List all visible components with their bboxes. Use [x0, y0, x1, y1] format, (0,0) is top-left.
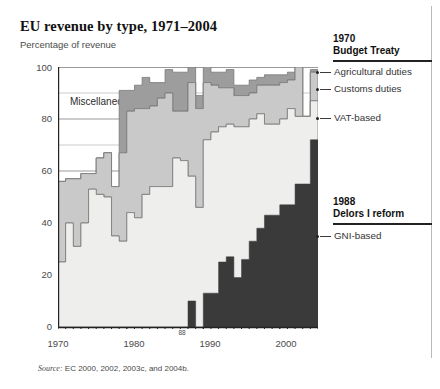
legend-group-top-event: Budget Treaty — [333, 45, 400, 57]
legend-group-top-year: 1970 — [333, 33, 355, 45]
legend-item-gni-based[interactable]: GNI-based — [334, 230, 381, 241]
source-text: EC 2000, 2002, 2003c, and 2004b. — [63, 364, 189, 373]
figure-page: EU revenue by type, 1971–2004 Percentage… — [0, 0, 440, 389]
stacked-area-svg — [58, 67, 318, 329]
area-layers — [58, 67, 318, 327]
legend-group-top-rule — [333, 60, 432, 62]
legend-leader-agricultural — [320, 72, 331, 73]
legend-dot-vat — [316, 117, 319, 120]
legend-dot-gni — [316, 235, 319, 238]
chart-subtitle: Percentage of revenue — [20, 39, 116, 50]
y-tick-label-80: 80 — [26, 113, 52, 124]
y-tick-label-0: 0 — [26, 321, 52, 332]
y-tick-label-100: 100 — [26, 62, 52, 73]
legend-dot-agricultural — [316, 71, 319, 74]
legend-group-bottom-event: Delors I reform — [333, 208, 404, 220]
y-tick-label-20: 20 — [26, 269, 52, 280]
figure-right-rule — [431, 6, 432, 358]
legend-item-vat-based[interactable]: VAT-based — [334, 112, 381, 123]
y-tick-label-60: 60 — [26, 165, 52, 176]
source-note: Source: EC 2000, 2002, 2003c, and 2004b. — [38, 364, 189, 373]
legend-leader-vat — [320, 118, 331, 119]
legend-leader-gni — [320, 236, 331, 237]
x-annotation-88: 88 — [172, 329, 192, 336]
chart-plot-area — [58, 67, 318, 327]
legend-item-customs-duties[interactable]: Customs duties — [334, 83, 402, 94]
x-tick-label-2000: 2000 — [266, 338, 306, 349]
source-label: Source: — [38, 364, 63, 373]
legend-group-bottom-rule — [333, 223, 432, 225]
x-tick-label-1980: 1980 — [114, 338, 154, 349]
x-tick-label-1970: 1970 — [38, 338, 78, 349]
x-tick-label-1990: 1990 — [190, 338, 230, 349]
legend-dot-customs — [316, 88, 319, 91]
legend-item-agricultural-duties[interactable]: Agricultural duties — [334, 66, 412, 77]
legend-group-bottom-year: 1988 — [333, 196, 355, 208]
y-tick-label-40: 40 — [26, 217, 52, 228]
legend-leader-customs — [320, 89, 331, 90]
page-title: EU revenue by type, 1971–2004 — [20, 18, 217, 35]
